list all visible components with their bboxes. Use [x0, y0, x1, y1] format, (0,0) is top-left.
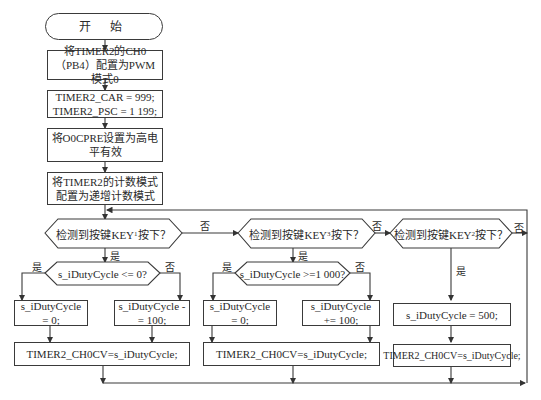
- label-d2-no: 否: [372, 218, 382, 233]
- arrow-i2-no: [350, 273, 370, 300]
- cv-set-3: TIMER2_CH0CV=s_iDutyCycle;: [393, 344, 511, 367]
- inner-decision-2-text: s_iDutyCycle >=1 000?: [247, 262, 338, 285]
- decision-3-text: 检测到按键KEY2按下？: [403, 219, 499, 248]
- cv-set-2: TIMER2_CH0CV=s_iDutyCycle;: [203, 342, 380, 366]
- label-d1-yes: 是: [110, 248, 120, 263]
- label-i2-no: 否: [355, 259, 365, 274]
- label-i2-yes: 是: [222, 259, 232, 274]
- start-terminal: 开 始: [45, 13, 163, 40]
- cv-set-1: TIMER2_CH0CV=s_iDutyCycle;: [14, 342, 190, 366]
- assign-b1-yes: s_iDutyCycle = 0;: [14, 300, 88, 326]
- arrow-i2-yes: [213, 273, 235, 300]
- assign-b3-yes: s_iDutyCycle = 500;: [393, 303, 511, 326]
- step-config-pwm: 将TIMER2的CH0（PB4）配置为PWM模式0: [47, 50, 163, 80]
- step-count-mode: 将TIMER2的计数模式配置为递增计数模式: [47, 172, 163, 205]
- label-d3-yes: 是: [456, 263, 466, 278]
- inner-decision-1-text: s_iDutyCycle <= 0?: [57, 262, 148, 285]
- label-d1-no: 否: [200, 218, 210, 233]
- label-i1-yes: 是: [32, 259, 42, 274]
- step-set-ocpre: 将O0CPRE设置为高电平有效: [47, 128, 163, 162]
- step-set-car-psc: TIMER2_CAR = 999; TIMER2_PSC = 1 199;: [47, 90, 163, 118]
- assign-b2-no: s_iDutyCycle += 100;: [302, 300, 380, 326]
- label-d2-yes: 是: [298, 248, 308, 263]
- label-i1-no: 否: [165, 259, 175, 274]
- arrow-i1-no: [160, 273, 180, 300]
- decision-1-text: 检测到按键KEY1按下？: [58, 219, 169, 248]
- assign-b2-yes: s_iDutyCycle = 0;: [203, 300, 277, 326]
- assign-b1-no: s_iDutyCycle -= 100;: [114, 300, 190, 326]
- decision-2-text: 检测到按键KEY3按下？: [251, 219, 362, 248]
- arrow-i1-yes: [22, 273, 45, 300]
- label-d3-no: 否: [514, 220, 524, 235]
